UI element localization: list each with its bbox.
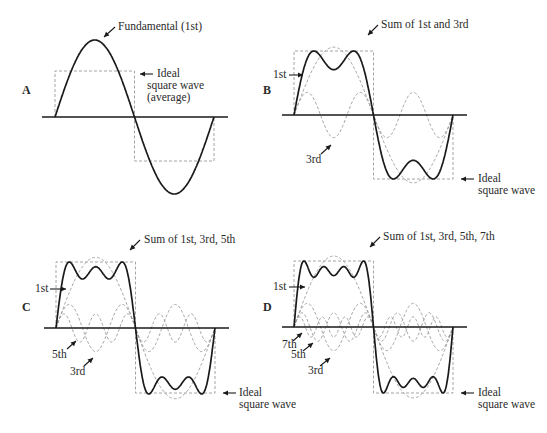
pointer-arrow-icon <box>303 343 313 351</box>
pointer-arrow-icon <box>67 341 76 349</box>
annotation-label: Ideal <box>157 67 180 79</box>
panel-letter: B <box>263 83 271 97</box>
pointer-arrow-icon <box>320 358 330 366</box>
panel-letter: A <box>22 83 31 97</box>
pointer-arrow-icon <box>461 176 474 181</box>
pointer-arrow-icon <box>461 390 474 395</box>
pointer-arrow-icon <box>140 71 153 76</box>
annotation-label: Sum of 1st, 3rd, 5th, 7th <box>383 230 495 243</box>
annotation-label: Ideal <box>478 172 501 184</box>
pointer-arrow-icon <box>104 27 115 37</box>
panel-c-sum-1st-3rd-5th: CSum of 1st, 3rd, 5th1st5th3rdIdealsquar… <box>22 233 296 411</box>
annotation-label: 3rd <box>308 364 324 376</box>
annotation-label: Fundamental (1st) <box>118 20 202 33</box>
panel-letter: D <box>263 300 272 314</box>
annotation-label: 1st <box>273 68 287 80</box>
annotation-label: square wave <box>478 398 535 411</box>
annotation-label: Sum of 1st, 3rd, 5th <box>144 233 236 246</box>
annotation-label: Ideal <box>239 386 262 398</box>
annotation-label: 5th <box>52 348 67 360</box>
fourier-square-wave-figure: AFundamental (1st)Idealsquare wave(avera… <box>0 0 547 433</box>
pointer-arrow-icon <box>130 240 140 250</box>
annotation-label: Sum of 1st and 3rd <box>381 18 469 30</box>
pointer-arrow-icon <box>84 358 93 366</box>
panel-a-fundamental: AFundamental (1st)Idealsquare wave(avera… <box>22 20 228 194</box>
pointer-arrow-icon <box>370 237 380 247</box>
pointer-arrow-icon <box>368 25 378 35</box>
panel-letter: C <box>22 300 31 314</box>
pointer-arrow-icon <box>321 145 331 154</box>
pointer-arrow-icon <box>223 390 236 395</box>
annotation-label: 3rd <box>306 153 322 165</box>
pointer-arrow-icon <box>50 286 66 291</box>
annotation-label: 3rd <box>70 365 86 377</box>
annotation-label: square wave <box>478 184 535 197</box>
pointer-arrow-icon <box>293 333 302 341</box>
annotation-label: 1st <box>273 280 287 292</box>
annotation-label: (average) <box>147 91 191 104</box>
annotation-label: 1st <box>35 282 49 294</box>
panel-b-sum-1st-3rd: BSum of 1st and 3rd1st3rdIdealsquare wav… <box>263 18 535 197</box>
panel-d-sum-1st-3rd-5th-7th: DSum of 1st, 3rd, 5th, 7th1st7th5th3rdId… <box>263 230 535 411</box>
annotation-label: square wave <box>239 398 296 411</box>
annotation-label: Ideal <box>478 386 501 398</box>
